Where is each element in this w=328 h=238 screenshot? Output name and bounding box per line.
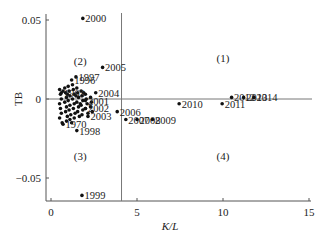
y-tick-label: −0.05: [16, 172, 42, 184]
point-label: 1999: [84, 190, 105, 201]
data-point: [60, 111, 64, 115]
point-marker: [84, 99, 88, 103]
data-point: [68, 104, 72, 108]
labeled-point: 1996: [70, 75, 95, 86]
point-marker: [177, 102, 181, 106]
point-label: 2003: [90, 111, 111, 122]
labeled-points: 2000200519971996196320042001200220031970…: [60, 13, 279, 201]
point-marker: [115, 110, 119, 114]
data-point: [75, 100, 79, 104]
labeled-point: 2003: [86, 111, 111, 122]
data-point: [58, 116, 62, 120]
point-marker: [81, 17, 85, 21]
quadrant-label: (3): [74, 150, 87, 163]
point-marker: [61, 122, 65, 126]
point-label: 2009: [155, 115, 176, 126]
point-label: 1963: [64, 88, 85, 99]
data-point: [59, 107, 63, 111]
labeled-point: 1999: [80, 190, 105, 201]
point-marker: [124, 118, 128, 122]
point-marker: [84, 107, 88, 111]
labeled-point: 1998: [75, 126, 100, 137]
data-point: [80, 113, 84, 117]
point-marker: [86, 115, 90, 119]
y-tick-label: 0: [36, 93, 42, 105]
data-point: [58, 102, 62, 106]
labeled-point: 1963: [60, 88, 85, 99]
data-point: [78, 102, 82, 106]
x-tick-label: 15: [304, 206, 316, 218]
labeled-point: 2000: [81, 13, 106, 24]
point-label: 1996: [74, 75, 95, 86]
point-marker: [135, 118, 139, 122]
labeled-point: 2005: [101, 62, 126, 73]
point-marker: [242, 96, 246, 100]
x-tick-label: 0: [48, 206, 54, 218]
point-marker: [94, 91, 98, 95]
point-marker: [220, 102, 224, 106]
x-tick-label: 5: [134, 206, 140, 218]
data-point: [66, 115, 70, 119]
point-label: 2005: [105, 62, 126, 73]
point-marker: [60, 91, 64, 95]
point-marker: [151, 118, 155, 122]
point-marker: [75, 129, 79, 133]
point-label: 2014: [256, 92, 278, 103]
point-label: 2010: [182, 99, 203, 110]
labeled-point: 2009: [151, 115, 176, 126]
data-point: [64, 110, 68, 114]
quadrant-label: (2): [74, 55, 87, 68]
data-point: [76, 110, 80, 114]
y-axis-label: TB: [12, 92, 24, 106]
data-point: [58, 88, 62, 92]
point-marker: [252, 96, 256, 100]
point-marker: [101, 66, 105, 70]
point-label: 1998: [79, 126, 100, 137]
point-marker: [70, 78, 74, 82]
x-axis-label: K/L: [161, 220, 179, 232]
data-point: [72, 107, 76, 111]
labeled-point: 2014: [252, 92, 278, 103]
labeled-point: 2010: [177, 99, 202, 110]
scatter-chart: 0510150.050−0.05 (1)(2)(3)(4) 2000200519…: [0, 0, 328, 238]
data-point: [69, 113, 73, 117]
x-tick-label: 10: [218, 206, 230, 218]
data-point: [67, 108, 71, 112]
data-point: [66, 99, 70, 103]
quadrant-label: (1): [217, 52, 230, 65]
point-label: 2000: [85, 13, 106, 24]
y-tick-label: 0.05: [22, 14, 42, 26]
data-point: [63, 100, 67, 104]
data-point: [65, 105, 69, 109]
quadrant-label: (4): [217, 150, 230, 163]
point-marker: [230, 96, 234, 100]
point-marker: [80, 194, 84, 198]
data-point: [60, 97, 64, 101]
